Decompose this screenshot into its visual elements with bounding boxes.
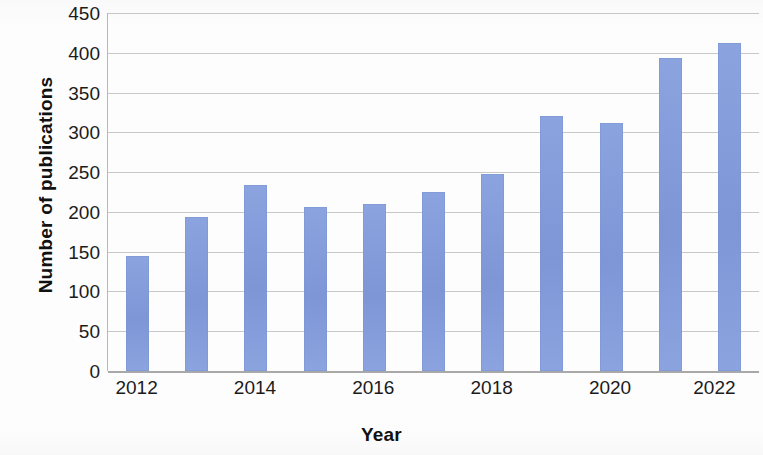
y-tick-label: 350: [28, 83, 100, 102]
x-tick-label: 2012: [97, 378, 177, 399]
y-tick-label: 50: [28, 322, 100, 341]
y-tick-label: 400: [28, 43, 100, 62]
y-tick-label: 300: [28, 123, 100, 142]
y-tick-label: 100: [28, 282, 100, 301]
y-tick-label: 250: [28, 163, 100, 182]
bar: [481, 174, 504, 371]
bar: [540, 116, 563, 371]
bar: [363, 204, 386, 371]
x-axis-tick-labels: 201220142016201820202022: [107, 378, 758, 406]
bar: [659, 58, 682, 371]
x-tick-label: 2016: [333, 378, 413, 399]
x-tick-label: 2022: [674, 378, 754, 399]
bar: [244, 185, 267, 371]
y-tick-label: 200: [28, 202, 100, 221]
y-axis-tick-labels: 050100150200250300350400450: [28, 0, 100, 455]
bars-layer: [108, 13, 759, 371]
bar: [185, 217, 208, 371]
bar: [304, 207, 327, 371]
y-tick-label: 150: [28, 242, 100, 261]
y-tick-label: 0: [28, 362, 100, 381]
x-tick-label: 2020: [570, 378, 650, 399]
axis-baseline: [108, 371, 759, 373]
bar: [718, 43, 741, 371]
plot-area: [107, 13, 759, 371]
bar-chart: Number of publications 05010015020025030…: [0, 0, 763, 455]
bar: [126, 256, 149, 371]
y-tick-label: 450: [28, 4, 100, 23]
bar: [422, 192, 445, 371]
x-tick-label: 2018: [452, 378, 532, 399]
x-axis-title: Year: [0, 424, 763, 446]
bar: [600, 123, 623, 371]
x-tick-label: 2014: [215, 378, 295, 399]
